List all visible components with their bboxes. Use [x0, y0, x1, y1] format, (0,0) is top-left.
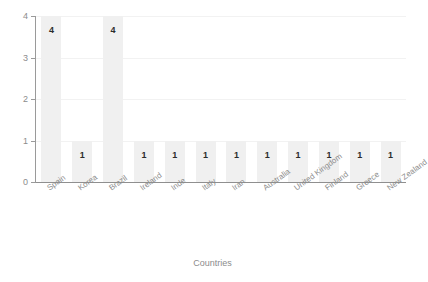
- bar-slot: 1: [190, 16, 221, 182]
- watermark-speck: [377, 88, 381, 97]
- x-axis-title: Countries: [0, 258, 425, 268]
- y-axis-tick-label: 1: [8, 137, 28, 146]
- y-axis-tick-label: 3: [8, 54, 28, 63]
- bar[interactable]: [226, 141, 246, 183]
- bar-slot: 1: [129, 16, 160, 182]
- bar[interactable]: [103, 16, 123, 182]
- y-axis-tick: [31, 99, 36, 100]
- bar-value-label: 1: [257, 151, 277, 160]
- bar-value-label: 1: [134, 151, 154, 160]
- y-axis-tick: [31, 141, 36, 142]
- bar[interactable]: [196, 141, 216, 183]
- bar-slot: 4: [36, 16, 67, 182]
- bar-value-label: 1: [381, 151, 401, 160]
- bar-slot: 1: [344, 16, 375, 182]
- bar-value-label: 1: [196, 151, 216, 160]
- y-axis-tick: [31, 58, 36, 59]
- y-axis-tick-label: 0: [8, 178, 28, 187]
- bar-value-label: 1: [288, 151, 308, 160]
- bar-value-label: 4: [103, 26, 123, 35]
- bar-slot: 1: [221, 16, 252, 182]
- bar-slot: 1: [67, 16, 98, 182]
- y-axis-tick-label: 4: [8, 12, 28, 21]
- bar-value-label: 1: [165, 151, 185, 160]
- y-axis-tick: [31, 16, 36, 17]
- bar-slot: 1: [159, 16, 190, 182]
- y-axis-tick-label: 2: [8, 95, 28, 104]
- bar-slot: 4: [98, 16, 129, 182]
- y-axis-tick: [31, 182, 36, 183]
- bar-slot: 1: [283, 16, 314, 182]
- bar-value-label: 1: [226, 151, 246, 160]
- plot-area: 414111111111: [36, 16, 406, 182]
- bar-slot: 1: [252, 16, 283, 182]
- bar[interactable]: [41, 16, 61, 182]
- bar-slot: 1: [375, 16, 406, 182]
- bar-value-label: 1: [350, 151, 370, 160]
- bar-value-label: 4: [41, 26, 61, 35]
- bar-value-label: 1: [72, 151, 92, 160]
